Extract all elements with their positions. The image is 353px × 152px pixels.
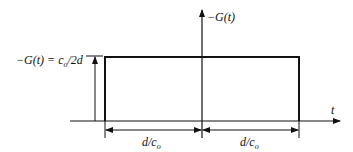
y-axis-label: −G(t) bbox=[207, 10, 235, 24]
pulse-diagram: −G(t) = co/2d −G(t) t d/co d/co bbox=[0, 0, 353, 152]
right-width-label: d/co bbox=[240, 135, 259, 151]
amplitude-label: −G(t) = co/2d bbox=[16, 53, 84, 69]
left-width-label: d/co bbox=[142, 135, 161, 151]
x-axis-label: t bbox=[331, 103, 335, 117]
